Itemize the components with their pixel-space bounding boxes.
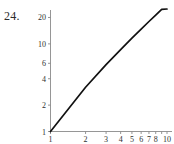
x-axis-tick-label: 10 [163,135,171,144]
data-series-group [51,9,168,132]
x-axis-tick-label: 2 [84,135,88,144]
y-axis [48,10,51,132]
y-axis-tick-label: 1 [30,127,46,136]
y-axis-tick-label: 2 [30,101,46,110]
x-axis-tick-label: 8 [154,135,158,144]
y-axis-tick-label: 4 [30,74,46,83]
y-axis-tick-label: 10 [30,39,46,48]
y-axis-tick-label: 6 [30,59,46,68]
data-series-line [51,9,168,132]
x-axis-tick-label: 7 [147,135,151,144]
x-axis-tick-label: 6 [139,135,143,144]
x-axis-tick-label: 4 [119,135,123,144]
log-log-plot [0,0,174,144]
x-axis-tick-label: 5 [130,135,134,144]
x-axis-tick-label: 1 [49,135,53,144]
x-axis-tick-label: 3 [104,135,108,144]
y-axis-tick-label: 20 [30,13,46,22]
figure-panel: 24. 12461020 1234567810 [0,0,174,144]
